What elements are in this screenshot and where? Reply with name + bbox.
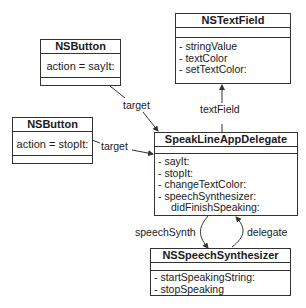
class-nstextfield: NSTextField - stringValue - textColor - … [175,13,291,84]
class-nsbutton-stopit: NSButton action = stopIt: [12,117,93,164]
label-target-sayit: target [123,99,150,111]
class-name: NSButton [13,118,92,132]
member: didFinishSpeaking: [155,202,297,214]
class-name: NSTextField [176,14,290,28]
class-speaklineappdelegate: SpeakLineAppDelegate - sayIt: - stopIt: … [154,132,298,216]
member: - stringValue [176,41,290,53]
member: - stopSpeaking [151,284,290,296]
edge-target-sayit-a [110,86,125,98]
class-name: NSSpeechSynthesizer [151,249,290,263]
label-delegate: delegate [247,226,287,238]
class-action: action = stopIt: [13,132,92,156]
class-nsbutton-sayit: NSButton action = sayIt: [40,39,121,86]
label-target-stopit: target [101,140,128,152]
class-action: action = sayIt: [41,54,120,78]
member: - startSpeakingString: [151,272,290,284]
member: - changeTextColor: [155,179,297,191]
label-textfield: textField [200,103,240,115]
member: - sayIt: [155,156,297,168]
class-name: SpeakLineAppDelegate [155,133,297,147]
edge-target-sayit-b [143,112,158,131]
label-speechsynth: speechSynth [135,226,196,238]
class-name: NSButton [41,40,120,54]
member: - setTextColor: [176,64,290,76]
class-nsspeechsynthesizer: NSSpeechSynthesizer - startSpeakingStrin… [150,248,291,296]
